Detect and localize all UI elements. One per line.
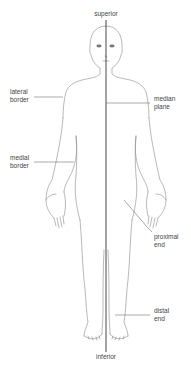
label-proximal-end-line1: proximal	[154, 233, 179, 241]
label-median-plane-line2: plane	[154, 103, 175, 111]
label-distal-end: distal end	[154, 307, 169, 323]
label-proximal-end-line2: end	[154, 241, 179, 249]
label-median-plane-line1: median	[154, 95, 175, 103]
label-medial-border-line1: medial	[10, 154, 29, 162]
label-superior: superior	[94, 10, 117, 18]
label-lateral-border-line1: lateral	[10, 88, 29, 96]
label-median-plane: median plane	[154, 95, 175, 111]
label-proximal-end: proximal end	[154, 233, 179, 249]
label-lateral-border-line2: border	[10, 96, 29, 104]
label-distal-end-line2: end	[154, 315, 169, 323]
label-medial-border: medial border	[10, 154, 29, 170]
label-medial-border-line2: border	[10, 162, 29, 170]
label-distal-end-line1: distal	[154, 307, 169, 315]
label-lateral-border: lateral border	[10, 88, 29, 104]
head-outline	[63, 26, 106, 118]
label-inferior: inferior	[96, 353, 116, 361]
anatomy-diagram: superior inferior lateral border median …	[0, 0, 191, 366]
